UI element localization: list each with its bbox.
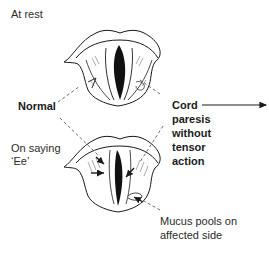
label-at-rest: At rest [11,8,43,21]
glottis-partial-closure-shape [115,150,123,206]
label-mucus-pools: Mucus pools on [160,215,237,228]
label-on-saying: On saying [11,142,61,155]
label-tensor: tensor [172,141,206,154]
larynx-at-rest-figure [64,30,160,106]
label-cord: Cord [172,99,198,112]
leader-lines [58,80,163,210]
larynx-phonation-figure [64,136,160,212]
label-affected-side: affected side [160,229,222,242]
label-paresis: paresis [172,113,211,126]
label-without: without [172,127,211,140]
label-action: action [172,155,204,168]
label-ee: ‘Ee’ [11,155,29,168]
label-normal: Normal [18,100,56,113]
glottis-open-shape [114,45,125,100]
